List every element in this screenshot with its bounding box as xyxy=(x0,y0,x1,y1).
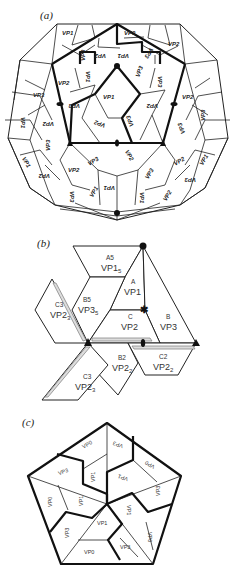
fivefold-axis-marker xyxy=(114,63,120,69)
svg-text:VP3: VP3 xyxy=(69,191,75,203)
svg-text:VP1: VP1 xyxy=(85,71,91,83)
svg-text:A: A xyxy=(131,278,136,285)
svg-text:VP2: VP2 xyxy=(42,121,54,127)
svg-text:VP2: VP2 xyxy=(94,53,106,59)
svg-text:VP3: VP3 xyxy=(64,528,70,538)
svg-text:VP3: VP3 xyxy=(157,76,163,88)
svg-text:VP1: VP1 xyxy=(124,287,141,297)
svg-text:VP3: VP3 xyxy=(124,30,136,36)
svg-text:VP3: VP3 xyxy=(120,544,130,550)
fivefold-axis-marker xyxy=(140,243,147,250)
svg-text:VP1: VP1 xyxy=(20,117,26,129)
svg-text:B: B xyxy=(166,313,170,320)
twofold-axis-marker-right xyxy=(171,102,178,106)
svg-text:VP3: VP3 xyxy=(80,49,86,61)
quasi-axis-marker: ✱ xyxy=(140,304,149,315)
svg-text:VP0: VP0 xyxy=(144,460,156,470)
svg-text:VP1: VP1 xyxy=(97,520,107,526)
svg-text:VP3: VP3 xyxy=(45,139,51,151)
svg-text:VP2: VP2 xyxy=(58,80,70,86)
asymmetric-unit-net-diagram: ✱ A5 VP15 A VP1 B5 VP35 C VP2 B VP3 C3 V… xyxy=(0,235,237,420)
svg-text:VP2: VP2 xyxy=(146,103,158,109)
svg-text:VP1: VP1 xyxy=(117,473,129,482)
svg-text:VP1: VP1 xyxy=(117,53,129,59)
svg-text:VP0: VP0 xyxy=(147,532,153,542)
twofold-axis-marker-left xyxy=(57,102,64,106)
svg-text:B5: B5 xyxy=(83,296,91,303)
svg-text:VP1: VP1 xyxy=(62,30,74,36)
svg-text:C2: C2 xyxy=(159,353,168,360)
svg-text:VP3: VP3 xyxy=(68,103,80,109)
svg-text:VP0: VP0 xyxy=(84,549,94,555)
svg-text:VP1: VP1 xyxy=(139,192,145,204)
svg-text:VP1: VP1 xyxy=(90,472,96,482)
svg-text:VP1: VP1 xyxy=(103,185,115,191)
fivefold-axis-marker-bottom xyxy=(114,210,120,216)
svg-text:VP3: VP3 xyxy=(184,177,196,183)
svg-text:VP3: VP3 xyxy=(200,109,206,121)
panel-a: (a) xyxy=(0,0,237,235)
svg-text:VP0: VP0 xyxy=(81,439,93,449)
svg-text:VP1: VP1 xyxy=(78,496,84,506)
svg-text:VP3: VP3 xyxy=(57,467,69,476)
svg-text:VP2: VP2 xyxy=(38,173,50,179)
svg-text:VP3: VP3 xyxy=(155,486,161,496)
svg-text:C3: C3 xyxy=(55,301,64,308)
panel-c: (c) VP0 VP3 VP0 VP3 VP1 VP1 VP3 VP0 VP1 … xyxy=(0,412,237,579)
pentamer-diagram: VP0 VP3 VP0 VP3 VP1 VP1 VP3 VP0 VP1 VP1 … xyxy=(0,412,237,579)
svg-text:VP2: VP2 xyxy=(182,94,194,100)
twofold-axis-marker xyxy=(141,339,145,347)
twofold-axis-marker xyxy=(115,140,119,147)
icosahedral-capsid-diagram: VP1 VP3 VP2 VP3 VP2 VP1 VP3 VP2 VP1 VP1 … xyxy=(0,0,237,235)
svg-text:VP2: VP2 xyxy=(168,41,180,47)
svg-text:VP3: VP3 xyxy=(33,92,45,98)
svg-text:VP1: VP1 xyxy=(103,94,115,100)
svg-text:VP2: VP2 xyxy=(121,322,138,332)
svg-text:B2: B2 xyxy=(118,354,126,361)
svg-text:VP3: VP3 xyxy=(160,322,177,332)
svg-text:VP0: VP0 xyxy=(47,497,53,507)
svg-text:A5: A5 xyxy=(106,254,114,261)
svg-text:VP3: VP3 xyxy=(112,440,124,449)
svg-text:VP1: VP1 xyxy=(126,505,132,515)
svg-text:VP2: VP2 xyxy=(68,167,80,173)
svg-text:C: C xyxy=(128,313,133,320)
svg-text:VP23: VP23 xyxy=(75,382,96,393)
panel-b: (b) ✱ A5 VP15 A xyxy=(0,235,237,420)
svg-text:C3: C3 xyxy=(83,373,92,380)
